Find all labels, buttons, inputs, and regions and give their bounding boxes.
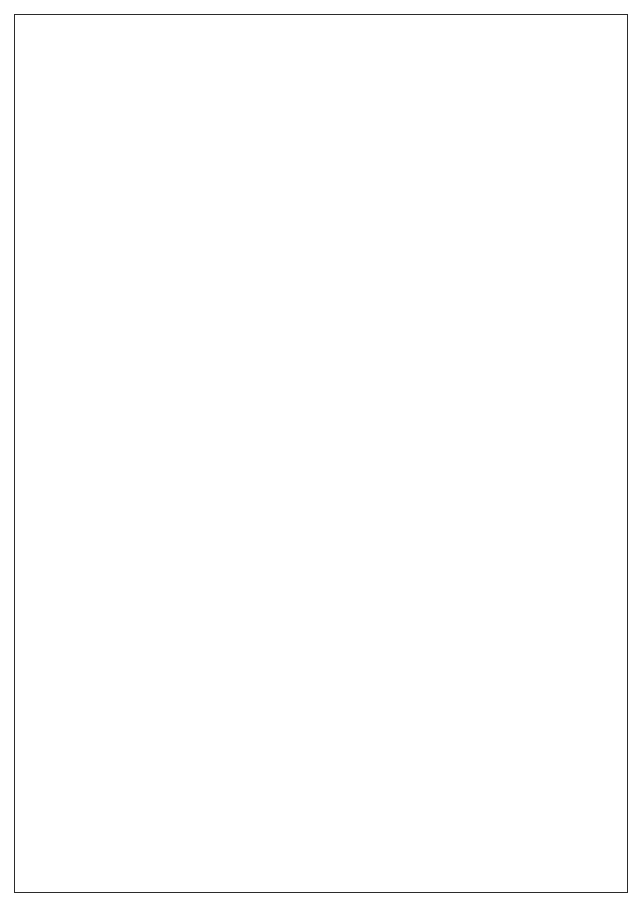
worksheet-table-body [161,35,608,903]
landscape-worksheet [29,29,643,908]
page-border [14,14,628,893]
column-header-row [75,35,161,903]
worksheet-grid [75,35,608,903]
